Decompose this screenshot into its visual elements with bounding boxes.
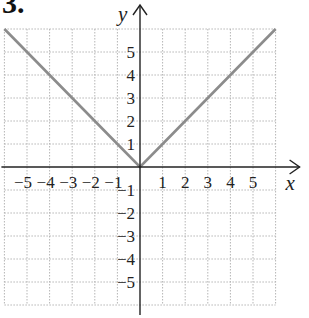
y-axis-label: y (116, 2, 128, 26)
x-tick-label: −5 (14, 173, 32, 192)
y-tick-label: 2 (127, 112, 136, 131)
x-tick-label: 4 (226, 173, 235, 192)
coordinate-plane-chart: xy −5−4−3−2−11234554321−1−2−3−4−5 (0, 0, 309, 318)
x-tick-label: 5 (249, 173, 258, 192)
y-tick-label: 3 (127, 89, 136, 108)
y-tick-label: 1 (127, 135, 136, 154)
x-tick-label: −3 (59, 173, 77, 192)
x-tick-label: 1 (158, 173, 167, 192)
x-tick-label: 3 (204, 173, 213, 192)
y-tick-label: −3 (117, 227, 135, 246)
y-tick-label: 5 (127, 43, 136, 62)
y-tick-label: 4 (127, 66, 136, 85)
x-tick-label: −4 (37, 173, 56, 192)
x-tick-label: −2 (82, 173, 100, 192)
x-axis-label: x (285, 171, 296, 195)
y-tick-label: −5 (117, 273, 135, 292)
y-tick-label: −1 (117, 181, 135, 200)
y-tick-label: −2 (117, 204, 135, 223)
x-tick-label: 2 (181, 173, 190, 192)
y-tick-label: −4 (117, 250, 136, 269)
